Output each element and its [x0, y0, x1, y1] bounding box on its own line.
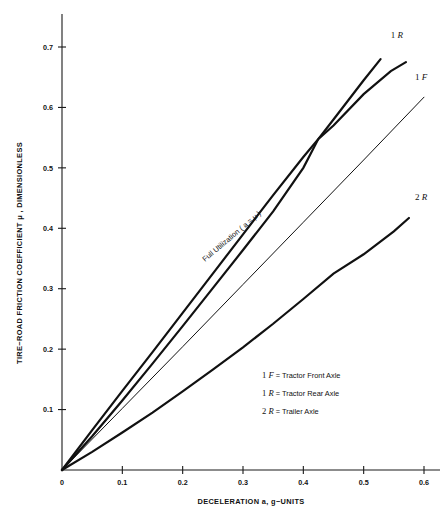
- legend-item-1R: 1 R = Tractor Rear Axle: [262, 388, 339, 398]
- x-tick-label-0: 0: [60, 478, 64, 487]
- curve-label-symbol: R: [397, 30, 404, 40]
- x-tick-label-2: 0.2: [178, 478, 188, 487]
- legend-description: Tractor Rear Axle: [282, 389, 339, 398]
- legend-equals: =: [274, 407, 282, 416]
- x-tick-label-1: 0.1: [117, 478, 127, 487]
- legend: 1 F = Tractor Front Axle1 R = Tractor Re…: [262, 370, 340, 416]
- y-tick-label-5: 0.6: [43, 103, 53, 112]
- y-tick-label-2: 0.3: [43, 284, 53, 293]
- curve-end-labels-group: 1 R1 F2 R: [391, 30, 428, 202]
- legend-item-2R: 2 R = Trailer Axle: [262, 406, 319, 416]
- curve-label-2R: 2 R: [415, 192, 428, 202]
- series-1R: [62, 59, 381, 470]
- x-tick-label-3: 0.3: [238, 478, 248, 487]
- legend-equals: =: [274, 389, 282, 398]
- curve-label-prefix: 1: [391, 30, 398, 40]
- legend-item-1F: 1 F = Tractor Front Axle: [262, 370, 340, 380]
- x-axis-title: DECELERATION a, g−UNITS: [197, 497, 304, 506]
- axes-group: [62, 14, 440, 470]
- curve-label-symbol: F: [421, 72, 428, 82]
- curve-label-prefix: 2: [415, 192, 422, 202]
- curve-label-symbol: R: [421, 192, 428, 202]
- x-axis-tick-labels: 00.10.20.30.40.50.6: [60, 478, 429, 487]
- series-2R: [62, 218, 409, 470]
- chart-figure: 00.10.20.30.40.50.6 0.10.20.30.40.50.60.…: [0, 0, 445, 524]
- x-tick-label-4: 0.4: [298, 478, 308, 487]
- legend-description: Tractor Front Axle: [282, 371, 340, 380]
- legend-equals: =: [274, 371, 282, 380]
- chart-canvas: 00.10.20.30.40.50.6 0.10.20.30.40.50.60.…: [0, 0, 445, 524]
- y-tick-label-3: 0.4: [43, 224, 53, 233]
- curve-label-1R: 1 R: [391, 30, 404, 40]
- curve-label-1F: 1 F: [415, 72, 428, 82]
- legend-description: Trailer Axle: [282, 407, 319, 416]
- y-axis-tick-labels: 0.10.20.30.40.50.60.7: [43, 43, 53, 415]
- x-tick-label-5: 0.5: [359, 478, 369, 487]
- y-tick-label-0: 0.1: [43, 405, 53, 414]
- x-tick-label-6: 0.6: [419, 478, 429, 487]
- data-series-group: [62, 59, 424, 470]
- y-axis-title: TIRE−ROAD FRICTION COEFFICIENT μ , DIMEN…: [15, 142, 24, 364]
- curve-label-prefix: 1: [415, 72, 422, 82]
- series-1F: [62, 62, 406, 470]
- y-tick-label-6: 0.7: [43, 43, 53, 52]
- y-tick-label-4: 0.5: [43, 164, 53, 173]
- series-Full Utilization: [62, 97, 424, 470]
- y-tick-label-1: 0.2: [43, 345, 53, 354]
